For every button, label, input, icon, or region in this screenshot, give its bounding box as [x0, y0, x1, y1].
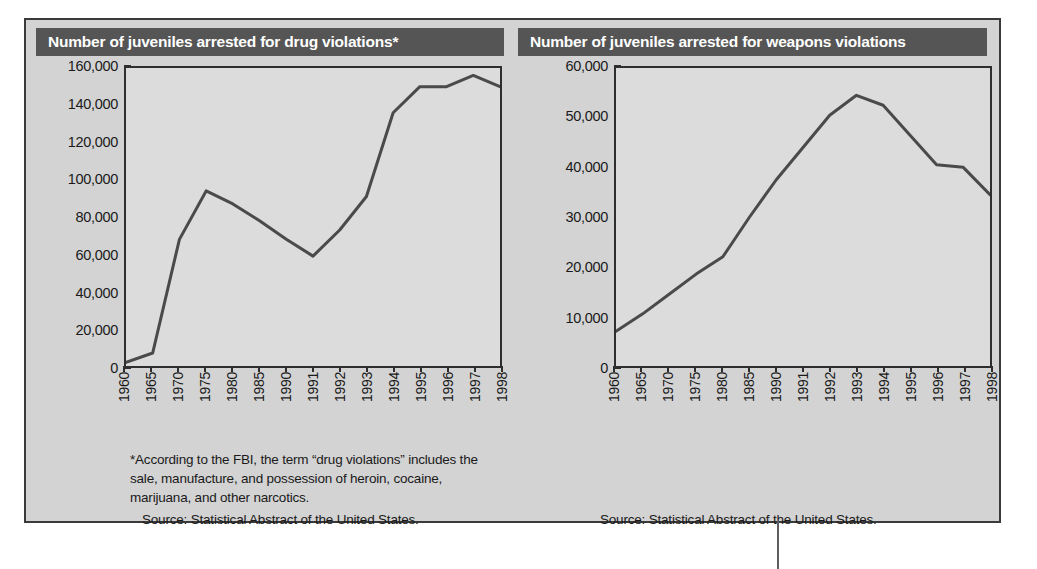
x-tick-label: 1992 — [822, 372, 838, 402]
y-tick-label: 60,000 — [524, 58, 608, 74]
y-tick-label: 20,000 — [34, 322, 118, 338]
y-tick-label: 40,000 — [34, 285, 118, 301]
x-tick-label: 1997 — [957, 372, 973, 402]
x-tick-label: 1990 — [768, 372, 784, 402]
line-series-drug-violations — [126, 68, 500, 366]
x-tick-label: 1980 — [224, 372, 240, 402]
x-tick-label: 1995 — [903, 372, 919, 402]
x-tick-label: 1993 — [849, 372, 865, 402]
x-tick-label: 1970 — [660, 372, 676, 402]
x-axis-left: 1960196519701975198019851990199119921993… — [124, 372, 502, 432]
x-tick-label: 1994 — [386, 372, 402, 402]
y-tick-label: 40,000 — [524, 159, 608, 175]
x-tick-label: 1995 — [413, 372, 429, 402]
leader-rule — [777, 521, 779, 569]
chart-title-bar-left: Number of juveniles arrested for drug vi… — [36, 28, 504, 56]
figure-panel: Number of juveniles arrested for drug vi… — [24, 18, 1001, 523]
y-tick-label: 120,000 — [34, 134, 118, 150]
x-tick-label: 1996 — [440, 372, 456, 402]
y-tick-label: 160,000 — [34, 58, 118, 74]
source-left: Source: Statistical Abstract of the Unit… — [142, 512, 419, 527]
y-tick-label: 140,000 — [34, 96, 118, 112]
x-tick-label: 1970 — [170, 372, 186, 402]
x-tick-label: 1980 — [714, 372, 730, 402]
x-tick-label: 1996 — [930, 372, 946, 402]
y-tick-label: 0 — [34, 360, 118, 376]
x-tick-label: 1991 — [305, 372, 321, 402]
x-tick-label: 1991 — [795, 372, 811, 402]
x-tick-label: 1997 — [467, 372, 483, 402]
chart-title-left: Number of juveniles arrested for drug vi… — [48, 33, 398, 51]
y-axis-left: 020,00040,00060,00080,000100,000120,0001… — [32, 66, 118, 368]
footnote-left: *According to the FBI, the term “drug vi… — [130, 450, 490, 507]
chart-title-bar-right: Number of juveniles arrested for weapons… — [518, 28, 987, 56]
y-tick-label: 100,000 — [34, 171, 118, 187]
x-tick-label: 1990 — [278, 372, 294, 402]
source-right: Source: Statistical Abstract of the Unit… — [600, 512, 877, 527]
plot-area-left — [124, 66, 502, 368]
line-series-weapons-violations — [616, 68, 990, 366]
x-tick-label: 1975 — [197, 372, 213, 402]
y-tick-label: 10,000 — [524, 310, 608, 326]
y-tick-label: 20,000 — [524, 259, 608, 275]
y-tick-label: 60,000 — [34, 247, 118, 263]
x-tick-label: 1992 — [332, 372, 348, 402]
y-tick-label: 0 — [524, 360, 608, 376]
chart-title-right: Number of juveniles arrested for weapons… — [530, 33, 906, 51]
x-tick-label: 1965 — [633, 372, 649, 402]
chart-weapons-violations: Number of juveniles arrested for weapons… — [514, 20, 1003, 521]
y-tick-label: 80,000 — [34, 209, 118, 225]
y-tick-label: 50,000 — [524, 108, 608, 124]
x-axis-right: 1960196519701975198019851990199119921993… — [614, 372, 992, 432]
x-tick-label: 1985 — [741, 372, 757, 402]
y-axis-right: 010,00020,00030,00040,00050,00060,000 — [522, 66, 608, 368]
y-tick-label: 30,000 — [524, 209, 608, 225]
x-tick-label: 1965 — [143, 372, 159, 402]
x-tick-label: 1994 — [876, 372, 892, 402]
x-tick-label: 1985 — [251, 372, 267, 402]
plot-area-right — [614, 66, 992, 368]
x-tick-label: 1975 — [687, 372, 703, 402]
chart-drug-violations: Number of juveniles arrested for drug vi… — [26, 20, 514, 521]
x-tick-label: 1993 — [359, 372, 375, 402]
x-tick-label: 1998 — [984, 372, 1000, 402]
x-tick-label: 1960 — [606, 372, 622, 402]
x-tick-label: 1998 — [494, 372, 510, 402]
x-tick-label: 1960 — [116, 372, 132, 402]
